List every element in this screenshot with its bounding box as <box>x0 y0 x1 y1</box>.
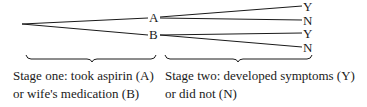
edge-a-y <box>160 6 302 17</box>
edge-root-b <box>22 24 148 35</box>
leaf-b-n-label: N <box>303 41 312 54</box>
edge-root-a <box>22 18 148 24</box>
tree-diagram: A B Y N Y N Stage one: took aspirin (A) … <box>0 0 367 107</box>
edge-a-n <box>160 18 302 20</box>
stage-one-caption-line2: or wife's medication (B) <box>13 85 154 103</box>
leaf-a-y-label: Y <box>303 0 312 13</box>
stage-two-caption: Stage two: developed symptoms (Y) or did… <box>165 67 355 103</box>
stage-two-caption-line1: Stage two: developed symptoms (Y) <box>165 67 355 85</box>
leaf-b-y-label: Y <box>303 27 312 40</box>
edge-b-y <box>160 33 302 35</box>
stage-one-caption-line1: Stage one: took aspirin (A) <box>13 67 154 85</box>
stage-two-caption-line2: or did not (N) <box>165 85 355 103</box>
stage-one-brace <box>26 55 156 62</box>
stage-two-brace <box>165 55 312 62</box>
stage-one-caption: Stage one: took aspirin (A) or wife's me… <box>13 67 154 103</box>
node-a-label: A <box>149 11 158 24</box>
edge-b-n <box>160 35 302 47</box>
node-b-label: B <box>149 28 158 41</box>
